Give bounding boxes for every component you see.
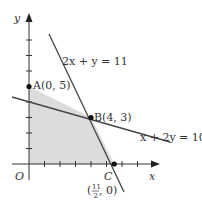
svg-text:(: ( — [87, 184, 91, 197]
point-a-label: A(0, 5) — [32, 79, 71, 92]
line-label-x-plus-2y: x + 2y = 10 — [140, 131, 202, 144]
svg-text:2: 2 — [94, 192, 98, 200]
svg-text:, 0): , 0) — [99, 184, 117, 197]
point-a — [26, 84, 31, 89]
line-label-2x-plus-y: 2x + y = 11 — [62, 55, 128, 68]
point-c-coord-label: ( 11 2 , 0) — [87, 183, 117, 200]
y-axis-label: y — [13, 12, 21, 25]
point-b-label: B(4, 3) — [94, 111, 132, 124]
x-axis-label: x — [149, 170, 156, 183]
point-c-label: C — [104, 170, 113, 183]
x-axis-arrow-icon — [151, 161, 160, 168]
origin-label: O — [15, 170, 24, 183]
point-b — [88, 115, 93, 120]
y-axis-arrow-icon — [26, 13, 33, 22]
point-c — [112, 161, 117, 166]
feasible-region-diagram: y x O 2x + y = 11 x + 2y = 10 A(0, 5) B(… — [0, 0, 202, 209]
feasible-region — [29, 87, 114, 165]
